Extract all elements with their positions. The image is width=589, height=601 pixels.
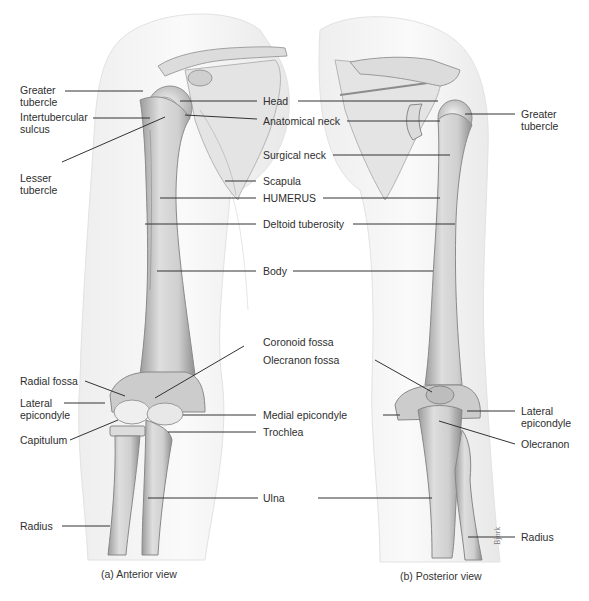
label-greater-tubercle-left: Greater tubercle: [20, 84, 57, 108]
label-line: epicondyle: [521, 417, 571, 429]
label-anatomical-neck: Anatomical neck: [263, 115, 340, 127]
diagram-artwork: Bjork: [0, 0, 589, 601]
label-scapula: Scapula: [263, 175, 301, 187]
humerus-diagram: Bjork: [0, 0, 589, 601]
label-line: sulcus: [20, 123, 88, 135]
posterior-view: Bjork: [319, 17, 502, 562]
artist-signature: Bjork: [493, 527, 502, 545]
label-lateral-epicondyle-right: Lateral epicondyle: [521, 405, 571, 429]
label-lesser-tubercle: Lesser tubercle: [20, 172, 57, 196]
label-radial-fossa: Radial fossa: [20, 375, 78, 387]
label-radius-right: Radius: [521, 531, 554, 543]
label-line: epicondyle: [20, 409, 70, 421]
label-ulna: Ulna: [263, 492, 285, 504]
label-line: Intertubercular: [20, 111, 88, 123]
anterior-view: [79, 14, 290, 560]
label-line: tubercle: [20, 184, 57, 196]
label-line: Lateral: [20, 397, 70, 409]
label-line: Greater: [521, 108, 558, 120]
label-line: Greater: [20, 84, 57, 96]
label-humerus: HUMERUS: [263, 192, 316, 204]
label-line: tubercle: [20, 96, 57, 108]
capitulum: [114, 400, 150, 424]
label-olecranon: Olecranon: [521, 438, 569, 450]
label-medial-epicondyle: Medial epicondyle: [263, 409, 347, 421]
label-line: Lesser: [20, 172, 57, 184]
caption-posterior-view: (b) Posterior view: [400, 570, 482, 582]
label-line: Lateral: [521, 405, 571, 417]
label-trochlea: Trochlea: [263, 426, 303, 438]
label-olecranon-fossa: Olecranon fossa: [263, 354, 339, 366]
label-head: Head: [263, 95, 288, 107]
label-body: Body: [263, 265, 287, 277]
label-surgical-neck: Surgical neck: [263, 149, 326, 161]
label-deltoid-tuberosity: Deltoid tuberosity: [263, 218, 344, 230]
caption-anterior-view: (a) Anterior view: [101, 568, 177, 580]
label-intertubercular-sulcus: Intertubercular sulcus: [20, 111, 88, 135]
label-lateral-epicondyle-left: Lateral epicondyle: [20, 397, 70, 421]
label-greater-tubercle-right: Greater tubercle: [521, 108, 558, 132]
label-coronoid-fossa: Coronoid fossa: [263, 336, 334, 348]
label-radius-left: Radius: [20, 520, 53, 532]
label-line: tubercle: [521, 120, 558, 132]
label-capitulum: Capitulum: [20, 434, 67, 446]
trochlea: [147, 403, 183, 425]
